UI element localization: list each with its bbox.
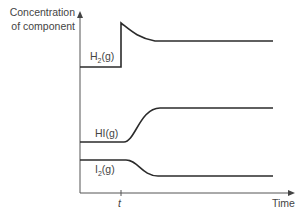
series-label-i2: I2(g) bbox=[95, 163, 115, 180]
t-tick-label: t bbox=[118, 197, 121, 209]
y-axis-label-line1: Concentration bbox=[3, 6, 75, 18]
y-axis-arrow-icon bbox=[77, 11, 83, 18]
x-axis-label: Time bbox=[272, 197, 295, 209]
series-label-hi: HI(g) bbox=[95, 127, 118, 139]
series-label-h2: H2(g) bbox=[90, 50, 114, 67]
x-axis-arrow-icon bbox=[288, 190, 295, 196]
y-axis-label-line2: of component bbox=[3, 20, 75, 32]
y-axis-label: Concentration of component bbox=[3, 6, 75, 32]
